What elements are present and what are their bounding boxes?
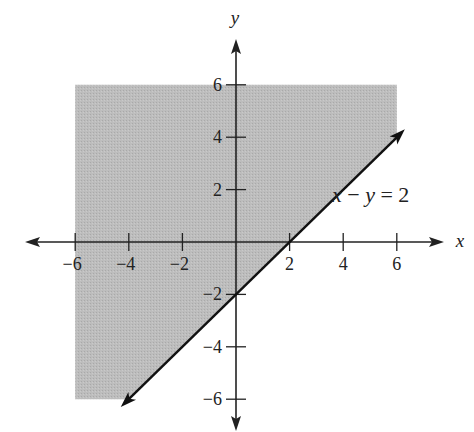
inequality-graph: −6−4−2246642−2−4−6xyx − y = 2	[0, 0, 474, 432]
y-tick-label: −6	[203, 389, 222, 409]
x-tick-label: −6	[63, 254, 82, 274]
y-tick-label: 4	[213, 127, 222, 147]
x-tick-label: 4	[339, 254, 348, 274]
equation-label: x − y = 2	[331, 182, 409, 207]
chart-container: −6−4−2246642−2−4−6xyx − y = 2	[0, 0, 474, 432]
y-tick-label: −2	[203, 284, 222, 304]
x-tick-label: −2	[170, 254, 189, 274]
x-tick-label: 2	[285, 254, 294, 274]
x-tick-label: 6	[392, 254, 401, 274]
x-axis-label: x	[455, 230, 465, 251]
x-tick-label: −4	[116, 254, 135, 274]
y-tick-label: 6	[213, 75, 222, 95]
y-axis-label: y	[229, 7, 240, 28]
y-tick-label: 2	[213, 180, 222, 200]
y-tick-label: −4	[203, 337, 222, 357]
